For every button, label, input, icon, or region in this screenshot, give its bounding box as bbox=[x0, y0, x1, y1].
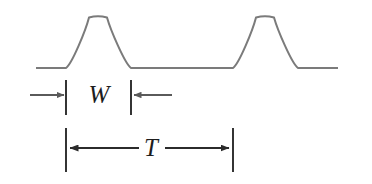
period-dimension-row: T bbox=[66, 128, 233, 172]
pulse-timing-diagram: W T bbox=[0, 0, 372, 184]
waveform-group bbox=[36, 16, 338, 68]
pulse-train-waveform bbox=[36, 16, 338, 68]
diagram-canvas: W T bbox=[0, 0, 372, 184]
period-label: T bbox=[144, 134, 160, 161]
pulse-width-dimension-row: W bbox=[30, 80, 172, 115]
pulse-width-label: W bbox=[89, 81, 112, 108]
